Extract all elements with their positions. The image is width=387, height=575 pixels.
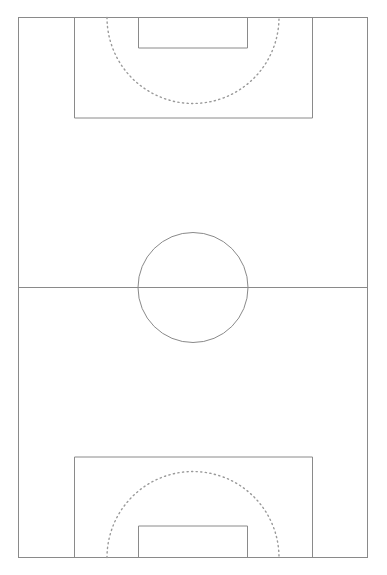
pitch-diagram [0, 0, 387, 575]
pitch-canvas [0, 0, 387, 575]
